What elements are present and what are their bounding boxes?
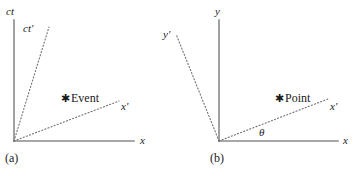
x-prime-axis-line bbox=[14, 101, 119, 141]
theta-angle-label: θ bbox=[259, 127, 264, 138]
ct-axis-label: ct bbox=[6, 6, 14, 17]
panel-b-axes bbox=[176, 20, 338, 141]
physics-figure-two-panel: ct ct' x x' ✱Event (a) y y' x x' ✱Point … bbox=[0, 0, 354, 176]
x-prime-axis-label-b: x' bbox=[330, 101, 337, 112]
y-prime-axis-line bbox=[176, 34, 219, 141]
point-marker: ✱Point bbox=[275, 92, 310, 104]
figure-vector-layer bbox=[0, 0, 354, 176]
y-prime-axis-label: y' bbox=[163, 29, 170, 40]
ct-prime-axis-label: ct' bbox=[23, 23, 33, 34]
panel-b-caption: (b) bbox=[210, 152, 224, 164]
panel-a-caption: (a) bbox=[5, 152, 18, 164]
x-prime-axis-label: x' bbox=[121, 101, 128, 112]
x-axis-label-b: x bbox=[343, 135, 348, 146]
ct-prime-axis-line bbox=[14, 27, 49, 141]
event-marker: ✱Event bbox=[61, 92, 99, 104]
panel-a-axes bbox=[14, 20, 134, 141]
asterisk-icon: ✱ bbox=[61, 92, 70, 104]
point-marker-label: Point bbox=[285, 91, 310, 105]
x-prime-axis-line-b bbox=[219, 99, 328, 141]
event-marker-label: Event bbox=[71, 91, 99, 105]
x-axis-label: x bbox=[140, 135, 145, 146]
asterisk-icon-b: ✱ bbox=[275, 92, 284, 104]
y-axis-label: y bbox=[215, 6, 220, 17]
